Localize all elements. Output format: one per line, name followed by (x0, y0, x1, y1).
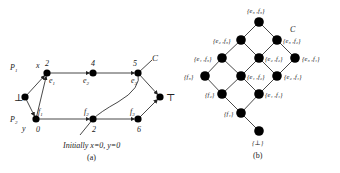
process-label-p2: P2 (9, 115, 18, 125)
event-value-e3: 5 (133, 59, 137, 68)
event-value-f1: 0 (36, 125, 40, 134)
cut-c-label-b: C (290, 25, 296, 34)
cut-c-label-a: C (152, 53, 159, 63)
variable-label-x: x (35, 61, 40, 70)
variable-label-y: y (21, 124, 26, 133)
lattice-node-n9 (217, 53, 227, 63)
caption-b: (b) (253, 151, 263, 160)
event-label-e1: e1 (49, 76, 55, 86)
lattice-label-n4: {e₁ ,f₁} (265, 91, 283, 99)
message-edges (25, 73, 158, 119)
lattice-node-n1 (254, 126, 264, 136)
figure-canvas: C ⊥e12e24e35f10f22f36⊤P1P2xy Initially x… (0, 0, 340, 173)
caption-a: (a) (87, 153, 96, 162)
lattice-label-n11: {e₃ ,f₂} (283, 37, 301, 45)
space-time-diagram: C ⊥e12e24e35f10f22f36⊤P1P2xy Initially x… (9, 53, 175, 162)
lattice-label-n1: {⊥} (252, 139, 264, 147)
event-label-e2: e2 (83, 76, 90, 86)
lattice-node-n13 (254, 17, 264, 27)
lattice-node-n6 (236, 71, 246, 81)
lattice-label-n7: {e₂ ,f₁} (284, 73, 302, 81)
lattice-node-n4 (254, 89, 264, 99)
lattice-label-n3: {f₂} (205, 91, 215, 99)
event-node-e3 (134, 69, 141, 76)
lattice-node-n12 (236, 35, 246, 45)
event-node-f2 (89, 115, 96, 122)
lattice-node-n5 (200, 71, 210, 81)
lattice-label-n5: {f₃} (184, 73, 194, 81)
event-label-bottom: ⊥ (14, 92, 23, 103)
lattice-label-n8: {e₂ ,f₂} (265, 55, 283, 63)
event-value-f2: 2 (92, 125, 96, 134)
process-label-p1: P1 (9, 63, 17, 73)
initial-condition: Initially x=0, y=0 (62, 141, 120, 150)
lattice-node-n2 (236, 108, 246, 118)
lattice-node-n8 (254, 53, 264, 63)
event-node-top (156, 93, 163, 100)
event-value-f3: 6 (137, 125, 141, 134)
lattice-node-n3 (217, 89, 227, 99)
event-value-e2: 4 (91, 59, 95, 68)
event-node-e2 (89, 69, 96, 76)
edge-f3-top (138, 100, 157, 119)
event-label-f2: f2 (84, 107, 89, 117)
lattice-node-n7 (272, 71, 282, 81)
event-value-e1: 2 (45, 59, 49, 68)
event-label-top: ⊤ (166, 92, 175, 103)
lattice-diagram: {e₃ ,f₃}{e₂ ,f₃}{e₃ ,f₂}{e₁ ,f₃}{e₂ ,f₂}… (184, 7, 320, 160)
lattice-node-n10 (290, 53, 300, 63)
event-node-f3 (134, 115, 141, 122)
event-node-f1 (32, 115, 39, 122)
event-label-e3: e3 (131, 76, 138, 86)
event-label-f1: f1 (38, 107, 43, 117)
lattice-label-n2: {f₁} (224, 110, 234, 118)
lattice-label-n13: {e₃ ,f₃} (247, 7, 265, 15)
lattice-nodes: {e₃ ,f₃}{e₂ ,f₃}{e₃ ,f₂}{e₁ ,f₃}{e₂ ,f₂}… (184, 7, 320, 147)
lattice-node-n11 (272, 35, 282, 45)
lattice-label-n9: {e₁ ,f₃} (194, 55, 212, 63)
lattice-label-n6: {e₁ ,f₂} (247, 73, 265, 81)
lattice-label-n10: {e₃ ,f₁} (302, 55, 320, 63)
event-label-f3: f3 (130, 107, 135, 117)
lattice-label-n12: {e₂ ,f₃} (213, 37, 231, 45)
edge-e3-top (138, 73, 158, 94)
